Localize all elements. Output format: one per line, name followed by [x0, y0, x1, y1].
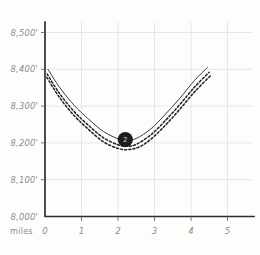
- xtick-label-1: 1: [79, 226, 85, 236]
- x-axis-labels: miles 0 1 2 3 4 5: [10, 226, 230, 236]
- ytick-label-8300: 8,300': [11, 101, 38, 111]
- ytick-label-8400: 8,400': [11, 64, 38, 74]
- xtick-label-2: 2: [115, 226, 121, 236]
- horizontal-gridlines: [45, 33, 252, 180]
- vertical-gridlines: [82, 22, 228, 217]
- x-axis-caption: miles: [10, 226, 33, 236]
- y-axis-labels: 8,500' 8,400' 8,300' 8,200' 8,100' 8,000…: [11, 28, 38, 222]
- xtick-label-4: 4: [188, 226, 194, 236]
- chart-canvas: 8,500' 8,400' 8,300' 8,200' 8,100' 8,000…: [0, 0, 260, 255]
- waypoint-marker[interactable]: 2: [118, 132, 133, 147]
- ytick-label-8500: 8,500': [11, 28, 38, 38]
- chart-axes: [45, 22, 254, 217]
- ytick-label-8100: 8,100': [11, 175, 38, 185]
- elevation-profile-chart: 8,500' 8,400' 8,300' 8,200' 8,100' 8,000…: [0, 0, 260, 255]
- xtick-label-0: 0: [42, 226, 48, 236]
- waypoint-marker-label: 2: [123, 136, 127, 144]
- ytick-label-8000: 8,000': [11, 212, 38, 222]
- ytick-label-8200: 8,200': [11, 138, 38, 148]
- xtick-label-5: 5: [225, 226, 231, 236]
- xtick-label-3: 3: [152, 226, 158, 236]
